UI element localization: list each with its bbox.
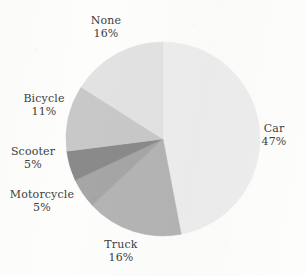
pie-label-none: None 16% (68, 14, 144, 41)
pie-label-bicycle: Bicycle 11% (11, 92, 77, 119)
pie-chart-figure: None 16% Car 47% Truck 16% Bicycle 11% S… (0, 0, 306, 276)
pie-label-car: Car 47% (248, 122, 300, 149)
pie-label-truck-name: Truck (86, 238, 156, 251)
pie-label-truck: Truck 16% (86, 238, 156, 265)
pie-label-scooter-name: Scooter (0, 145, 66, 158)
pie-label-scooter: Scooter 5% (0, 145, 66, 172)
pie-label-car-percent: 47% (248, 135, 300, 148)
pie-slice-car (163, 42, 260, 234)
pie-label-bicycle-name: Bicycle (11, 92, 77, 105)
pie-label-bicycle-percent: 11% (11, 105, 77, 118)
pie-label-scooter-percent: 5% (0, 158, 66, 171)
pie-label-none-percent: 16% (68, 27, 144, 40)
pie-label-none-name: None (68, 14, 144, 27)
pie-label-truck-percent: 16% (86, 251, 156, 264)
pie-label-motorcycle-percent: 5% (0, 201, 84, 214)
pie-label-car-name: Car (248, 122, 300, 135)
pie-label-motorcycle-name: Motorcycle (0, 188, 84, 201)
pie-label-motorcycle: Motorcycle 5% (0, 188, 84, 215)
